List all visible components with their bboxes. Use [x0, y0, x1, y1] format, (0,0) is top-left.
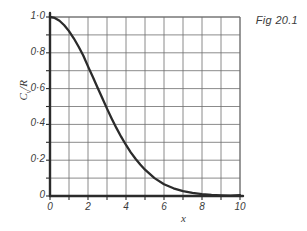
y-axis-label-base: C — [17, 93, 29, 100]
x-axis-label: x — [181, 212, 186, 224]
x-tick-label: 4 — [116, 201, 136, 212]
x-tick-label: 6 — [154, 201, 174, 212]
y-tick-label: 0·4 — [14, 117, 45, 128]
axis-ticks — [46, 17, 240, 200]
axis-lines — [50, 13, 243, 196]
y-tick-label: 0 — [14, 189, 45, 200]
x-tick-label: 8 — [192, 201, 212, 212]
x-tick-label: 10 — [230, 201, 250, 212]
x-tick-label: 0 — [40, 201, 60, 212]
y-tick-label: 0·2 — [14, 153, 45, 164]
chart-canvas — [0, 0, 307, 231]
x-tick-label: 2 — [78, 201, 98, 212]
y-tick-label: 0·8 — [14, 46, 45, 57]
y-tick-label: 1·0 — [14, 10, 45, 21]
y-tick-label: 0·6 — [14, 82, 45, 93]
figure-20-1: Fig 20.1 Cv/R x 00·20·40·60·81·0 0246810 — [0, 0, 307, 231]
figure-caption: Fig 20.1 — [256, 14, 298, 26]
